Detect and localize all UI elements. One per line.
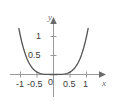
y-axis-label: y <box>48 13 52 22</box>
y-tick-label-half: 0.5 <box>28 51 41 60</box>
x-axis-arrowhead <box>99 71 106 78</box>
x-tick-label-half: 0.5 <box>63 80 76 89</box>
origin-label: 0 <box>48 78 53 87</box>
x-tick-label-one: 1 <box>83 80 88 89</box>
x-tick-label-neg1: -1 <box>16 80 24 89</box>
x-tick-label-neghalf: -0.5 <box>27 80 43 89</box>
y-tick-label-one: 1 <box>36 32 41 41</box>
x-axis-label: x <box>102 79 106 88</box>
graph-figure: -1 -0.5 0 0.5 1 1 0.5 x y <box>0 0 114 107</box>
plot-canvas <box>0 0 114 107</box>
